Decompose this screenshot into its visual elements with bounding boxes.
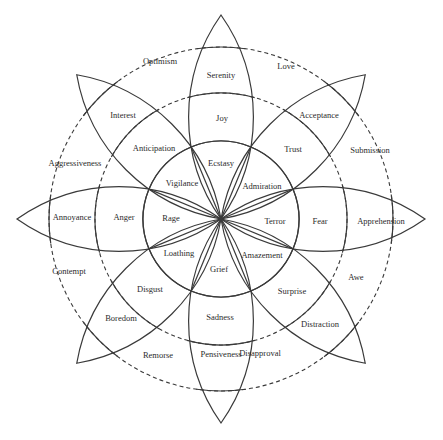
petal-band-sadness-1 [187, 340, 254, 345]
emotion-label-distraction: Distraction [301, 319, 340, 329]
petal-band-fear-0 [293, 189, 299, 249]
emotion-label-apprehension: Apprehension [357, 216, 405, 226]
petal-band-joy-1 [187, 93, 254, 98]
petal-band-sadness-2 [196, 389, 245, 391]
emotion-label-optimism: Optimism [143, 56, 177, 66]
emotion-label-love: Love [277, 61, 295, 71]
emotion-label-boredom: Boredom [105, 313, 137, 323]
center-point [219, 217, 222, 220]
petal-band-joy-0 [191, 141, 251, 147]
emotion-label-joy: Joy [216, 113, 229, 123]
emotion-label-submission: Submission [350, 145, 390, 155]
petal-band-disgust-2 [83, 322, 118, 357]
emotion-label-contempt: Contempt [52, 266, 86, 276]
petal-band-sadness-0 [191, 291, 251, 297]
labels-layer: SerenityJoyEcstasyAcceptanceTrustAdmirat… [49, 56, 406, 360]
emotion-wheel-diagram: SerenityJoyEcstasyAcceptanceTrustAdmirat… [0, 0, 443, 440]
emotion-label-anticipation: Anticipation [133, 143, 176, 153]
emotion-label-remorse: Remorse [143, 350, 173, 360]
emotion-label-disapproval: Disapproval [239, 348, 281, 358]
emotion-label-pensiveness: Pensiveness [200, 349, 241, 359]
emotion-label-sadness: Sadness [206, 312, 233, 322]
petal-band-anger-2 [49, 194, 51, 243]
emotion-label-interest: Interest [110, 110, 136, 120]
emotion-label-annoyance: Annoyance [53, 212, 92, 222]
emotion-label-anger: Anger [113, 212, 134, 222]
petal-band-anger-1 [95, 185, 100, 252]
emotion-label-serenity: Serenity [207, 70, 236, 80]
emotion-label-rage: Rage [162, 213, 180, 223]
emotion-label-amazement: Amazement [241, 250, 283, 260]
emotion-label-ecstasy: Ecstasy [208, 158, 235, 168]
emotion-label-awe: Awe [348, 272, 363, 282]
petal-band-fear-1 [342, 185, 347, 252]
emotion-label-surprise: Surprise [278, 286, 307, 296]
emotion-label-admiration: Admiration [242, 181, 282, 191]
petal-band-anger-0 [143, 189, 149, 249]
emotion-label-terror: Terror [264, 216, 285, 226]
emotion-label-aggressiveness: Aggressiveness [49, 158, 102, 168]
emotion-label-disgust: Disgust [137, 284, 164, 294]
petal-band-joy-2 [196, 47, 245, 49]
emotion-label-grief: Grief [210, 264, 228, 274]
emotion-label-loathing: Loathing [164, 248, 195, 258]
emotion-label-fear: Fear [312, 216, 327, 226]
emotion-label-trust: Trust [284, 144, 302, 154]
emotion-label-acceptance: Acceptance [299, 110, 339, 120]
emotion-label-vigilance: Vigilance [166, 178, 199, 188]
